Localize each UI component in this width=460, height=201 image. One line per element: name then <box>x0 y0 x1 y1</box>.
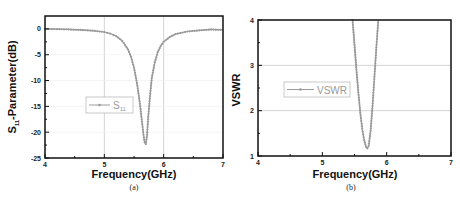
x-axis-label: Frequency(GHz) <box>313 168 398 180</box>
s11-chart: 45670-5-10-15-20-25 S11 Frequency(GHz) (… <box>6 16 225 192</box>
x-tick-label: 5 <box>102 161 106 168</box>
y-tick-label: 2 <box>250 107 254 114</box>
grid <box>45 16 223 158</box>
panel-caption: (a) <box>130 183 139 192</box>
y-tick-label: -5 <box>35 51 41 58</box>
figure: 45670-5-10-15-20-25 S11 Frequency(GHz) (… <box>0 0 460 201</box>
y-tick-label: -20 <box>31 129 41 136</box>
y-tick-label: 3 <box>250 62 254 69</box>
legend: S11 <box>86 97 133 113</box>
y-tick-label: 1 <box>250 153 254 160</box>
legend: VSWR <box>284 82 350 97</box>
vswr-series <box>351 19 379 149</box>
x-tick-label: 7 <box>221 161 225 168</box>
x-tick-label: 4 <box>43 161 47 168</box>
panel-caption: (b) <box>346 183 356 192</box>
y-tick-label: -10 <box>31 77 41 84</box>
y-tick-label: -15 <box>31 103 41 110</box>
x-tick-label: 4 <box>256 159 260 166</box>
x-tick-label: 5 <box>320 159 324 166</box>
x-tick-label: 6 <box>385 159 389 166</box>
x-axis-label: Frequency(GHz) <box>92 168 177 180</box>
y-tick-label: -25 <box>31 155 41 162</box>
y-axis-label: S11-Parameter(dB) <box>6 40 20 133</box>
y-tick-label: 4 <box>250 17 254 24</box>
y-axis-label: VSWR <box>230 73 242 106</box>
axis-ticks: 45671234 <box>250 17 453 167</box>
x-tick-label: 7 <box>449 159 453 166</box>
vswr-chart: 45671234 VSWR Frequency(GHz) (b) VSWR <box>230 17 453 193</box>
legend-label: VSWR <box>317 85 347 96</box>
x-tick-label: 6 <box>162 161 166 168</box>
plot-frame <box>45 16 223 158</box>
s11-series <box>44 28 223 145</box>
y-tick-label: 0 <box>37 25 41 32</box>
